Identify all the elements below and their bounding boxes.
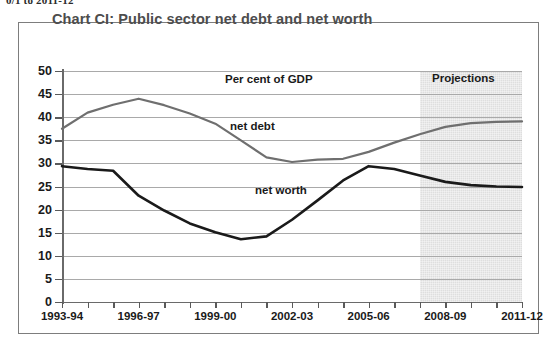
x-axis-tick [190,302,191,308]
gridline [62,94,522,95]
x-axis-tick-label: 1993-94 [41,310,83,322]
y-axis-tick-label: 15 [22,226,52,240]
y-axis-tick-label: 30 [22,156,52,170]
y-axis-tick-label: 35 [22,133,52,147]
y-axis-tick [55,163,62,164]
x-axis-tick-label: 2005-06 [348,310,390,322]
x-axis-tick [369,302,370,308]
x-axis-tick [215,302,216,308]
projections-annotation: Projections [432,72,495,84]
y-axis-tick-label: 25 [22,180,52,194]
x-axis-tick [471,302,472,308]
y-axis-tick-label: 40 [22,110,52,124]
x-axis-tick [139,302,140,308]
y-axis-tick [55,117,62,118]
x-axis-tick [164,302,165,308]
gridline [62,279,522,280]
y-axis-tick-label: 0 [22,295,52,309]
y-axis-tick [55,94,62,95]
y-axis-tick-label: 20 [22,203,52,217]
x-axis-tick [292,302,293,308]
x-axis-tick [241,302,242,308]
y-axis-tick [55,302,62,303]
x-axis-tick [496,302,497,308]
y-axis-line [62,69,64,304]
x-axis-tick [394,302,395,308]
series-label-net-debt: net debt [230,120,275,132]
y-axis-tick [55,279,62,280]
y-axis-tick-label: 45 [22,87,52,101]
x-axis-tick-label: 1996-97 [118,310,160,322]
x-axis-tick-label: 2002-03 [271,310,313,322]
y-axis-tick-label: 50 [22,64,52,78]
y-axis-tick-label: 10 [22,249,52,263]
y-axis-tick [55,233,62,234]
x-axis-tick-label: 2011-12 [501,310,543,322]
x-axis-tick [266,302,267,308]
gridline [62,163,522,164]
x-axis-tick [62,302,63,308]
y-axis-tick [55,210,62,211]
x-axis-tick [343,302,344,308]
chart-title: Chart CI: Public sector net debt and net… [52,11,372,27]
gridline [62,140,522,141]
x-axis-tick [318,302,319,308]
units-annotation: Per cent of GDP [225,73,313,85]
y-axis-tick [55,256,62,257]
gridline [62,117,522,118]
y-axis-tick [55,187,62,188]
x-axis-tick [88,302,89,308]
x-axis-tick [113,302,114,308]
y-axis-tick [55,71,62,72]
gridline [62,210,522,211]
y-axis-tick-label: 5 [22,272,52,286]
y-axis-labels: 05101520253035404550 [18,0,52,359]
x-axis-tick [522,302,523,308]
x-axis-tick-label: 2008-09 [424,310,466,322]
y-axis-tick [55,140,62,141]
series-label-net-worth: net worth [255,184,307,196]
x-axis-tick [445,302,446,308]
gridline [62,233,522,234]
gridline [62,256,522,257]
x-axis-tick [420,302,421,308]
x-axis-tick-label: 1999-00 [194,310,236,322]
